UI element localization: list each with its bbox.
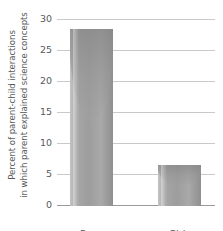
y-axis-title-line-1: Percent of parent-child interactions — [7, 1, 19, 209]
y-tick-label-15: 15 — [40, 107, 52, 117]
bar-highlight — [73, 29, 79, 206]
y-tick-label-25: 25 — [40, 45, 52, 55]
bar-chart: Percent of parent-child interactions in … — [0, 0, 223, 231]
bar-girls — [158, 165, 201, 207]
y-axis-title: Percent of parent-child interactions in … — [0, 0, 36, 210]
bar-boys — [70, 29, 113, 206]
gridline-30: 30 — [57, 19, 215, 20]
y-tick-label-30: 30 — [40, 14, 52, 24]
plot-area: 30 25 20 15 10 5 0 Boys Girls — [57, 18, 215, 206]
x-tick-label-boys: Boys — [70, 228, 113, 231]
y-tick-label-5: 5 — [46, 169, 52, 179]
y-tick-label-10: 10 — [40, 138, 52, 148]
y-tick-label-0: 0 — [46, 200, 52, 210]
bar-highlight — [161, 165, 167, 207]
x-tick-label-girls: Girls — [158, 228, 201, 231]
y-axis-title-line-2: in which parent explained science concep… — [18, 1, 30, 209]
y-axis-title-rotated: Percent of parent-child interactions in … — [7, 1, 30, 209]
y-tick-label-20: 20 — [40, 76, 52, 86]
